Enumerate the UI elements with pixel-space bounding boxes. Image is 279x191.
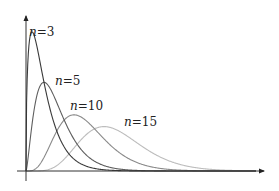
chi-square-chart: n=3n=5n=10n=15 [0,0,279,191]
density-curves [26,32,256,171]
curve-labels: n=3n=5n=10n=15 [29,25,157,129]
label-df-3: n=3 [29,25,54,39]
label-df-10: n=10 [70,99,103,113]
curve-df-3 [26,32,256,171]
label-df-15: n=15 [124,115,157,129]
label-df-5: n=5 [55,74,80,88]
